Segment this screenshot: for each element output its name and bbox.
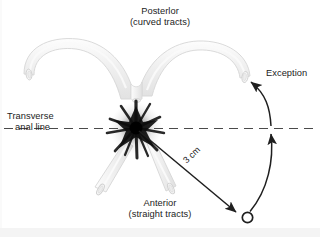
posterior-curved-tract-right <box>142 41 250 96</box>
label-transverse-line1: Transverse <box>7 111 54 122</box>
label-exception: Exception <box>266 68 307 79</box>
posterior-tract-junction <box>131 82 142 103</box>
label-anterior-line1: Anterior <box>0 198 320 209</box>
label-posterior-line1: Posterlor <box>0 6 320 17</box>
exception-curved-arrow-upper <box>251 82 271 126</box>
label-transverse-anal-line: Transverse anal line <box>7 111 54 133</box>
label-anterior: Anterior (straight tracts) <box>0 198 320 220</box>
label-posterior: Posterlor (curved tracts) <box>0 6 320 28</box>
label-posterior-line2: (curved tracts) <box>0 17 320 28</box>
label-anterior-line2: (straight tracts) <box>0 209 320 220</box>
anatomical-diagram: Posterlor (curved tracts) Transverse ana… <box>0 0 320 237</box>
bottom-edge-band <box>0 228 320 237</box>
posterior-curved-tract-left <box>24 39 131 99</box>
anal-opening-starburst <box>107 101 164 158</box>
label-transverse-line2: anal line <box>7 122 54 133</box>
